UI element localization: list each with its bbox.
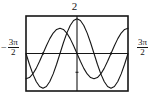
denominator: 2 — [137, 48, 148, 58]
x-max-label: 3π 2 — [137, 38, 148, 58]
fraction-3pi-over-2-right: 3π 2 — [137, 38, 148, 58]
fraction-3pi-over-2-left: 3π 2 — [8, 38, 19, 58]
x-min-label: − 3π 2 — [1, 38, 19, 58]
trig-graph-figure: 2 − 3π 2 3π 2 — [0, 0, 149, 97]
denominator: 2 — [8, 48, 19, 58]
plot-canvas — [0, 0, 149, 97]
minus-sign: − — [1, 43, 7, 53]
y-max-label: 2 — [0, 1, 149, 12]
